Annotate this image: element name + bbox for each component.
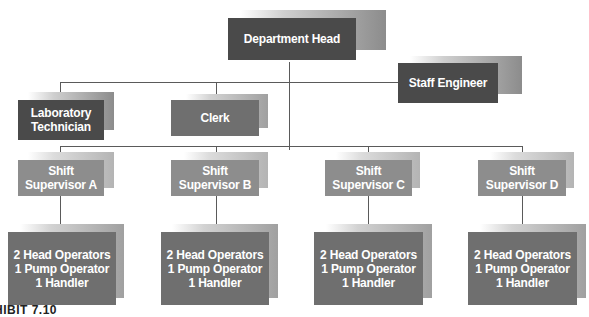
- shift-supervisor-d-label: Shift Supervisor D: [478, 160, 566, 196]
- shift-supervisor-b-label: Shift Supervisor B: [171, 160, 259, 196]
- crew-c-label: 2 Head Operators 1 Pump Operator 1 Handl…: [314, 232, 423, 305]
- crew-b-label: 2 Head Operators 1 Pump Operator 1 Handl…: [161, 232, 269, 305]
- laboratory-technician-label: Laboratory Technician: [18, 100, 104, 140]
- clerk-label: Clerk: [171, 100, 259, 136]
- department-head-label: Department Head: [228, 18, 356, 60]
- connector-head-vertical: [289, 62, 290, 150]
- staff-engineer-label: Staff Engineer: [398, 63, 498, 103]
- exhibit-caption: HIBIT 7.10: [0, 303, 57, 317]
- crew-d-label: 2 Head Operators 1 Pump Operator 1 Handl…: [468, 232, 577, 305]
- connector-level2-horizontal: [60, 82, 289, 83]
- shift-supervisor-a-label: Shift Supervisor A: [18, 160, 104, 196]
- connector-staff-horizontal: [289, 82, 399, 83]
- shift-supervisor-c-label: Shift Supervisor C: [325, 160, 412, 196]
- connector-supervisors-horizontal: [60, 146, 523, 147]
- crew-a-label: 2 Head Operators 1 Pump Operator 1 Handl…: [8, 232, 116, 305]
